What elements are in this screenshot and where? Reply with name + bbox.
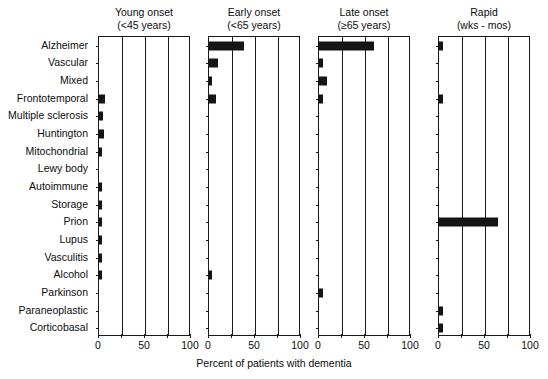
ytick-mark [206, 134, 209, 135]
ytick-mark [206, 205, 209, 206]
xtick-mark [121, 334, 122, 338]
xtick-label: 50 [358, 338, 370, 352]
ytick-mark [96, 328, 99, 329]
ytick-mark [436, 152, 439, 153]
ytick-mark [436, 81, 439, 82]
gridline [462, 37, 463, 335]
xtick-mark [461, 334, 462, 338]
ytick-mark [436, 275, 439, 276]
ytick-mark [436, 169, 439, 170]
xtick-label: 100 [181, 338, 199, 352]
ytick-mark [316, 240, 319, 241]
ytick-mark [206, 152, 209, 153]
panel-rapid [438, 36, 530, 336]
bar [99, 94, 105, 103]
category-label: Mitochondrial [26, 145, 88, 156]
xtick-mark [341, 334, 342, 338]
ytick-mark [96, 81, 99, 82]
bar [99, 271, 102, 280]
xtick-label: 0 [95, 338, 101, 352]
category-label: Vasculitis [44, 251, 88, 262]
ytick-mark [316, 169, 319, 170]
ytick-mark [316, 275, 319, 276]
xtick-mark [277, 334, 278, 338]
panel-title-early: Early onset (<65 years) [208, 6, 300, 31]
category-label: Multiple sclerosis [8, 110, 88, 121]
gridline [145, 37, 146, 335]
xtick-label: 100 [401, 338, 419, 352]
bar [209, 271, 212, 280]
ytick-mark [316, 328, 319, 329]
ytick-mark [316, 116, 319, 117]
bar [99, 235, 102, 244]
xtick-label: 50 [478, 338, 490, 352]
panel-title-young: Young onset (<45 years) [98, 6, 190, 31]
ytick-mark [206, 169, 209, 170]
category-label: Autoimmune [29, 181, 88, 192]
category-label: Frontotemporal [17, 92, 88, 103]
ytick-mark [436, 116, 439, 117]
panel-title-young-line2: (<45 years) [98, 19, 190, 32]
ytick-mark [436, 63, 439, 64]
panel-title-rapid-line2: (wks - mos) [438, 19, 530, 32]
xaxis-ticks-rapid: 050100 [438, 338, 530, 352]
category-label: Corticobasal [30, 322, 88, 333]
bar [99, 183, 102, 192]
xtick-label: 100 [521, 338, 539, 352]
ytick-mark [316, 258, 319, 259]
panel-title-early-line1: Early onset [208, 6, 300, 19]
panel-young [98, 36, 190, 336]
panel-early [208, 36, 300, 336]
bar [99, 200, 102, 209]
bar [439, 218, 498, 227]
panel-title-rapid: Rapid (wks - mos) [438, 6, 530, 31]
ytick-mark [96, 311, 99, 312]
bar [209, 77, 212, 86]
ytick-mark [316, 311, 319, 312]
bar [319, 41, 374, 50]
gridline [508, 37, 509, 335]
ytick-mark [96, 63, 99, 64]
figure-bar-chart-dementia-etiologies: Young onset (<45 years) Early onset (<65… [0, 0, 548, 379]
category-label: Huntington [37, 128, 88, 139]
category-label: Lewy body [38, 163, 88, 174]
ytick-mark [206, 293, 209, 294]
ytick-mark [96, 169, 99, 170]
bar [99, 218, 102, 227]
category-label: Lupus [59, 233, 88, 244]
xtick-mark [507, 334, 508, 338]
bar [319, 77, 327, 86]
ytick-mark [96, 46, 99, 47]
ytick-mark [206, 328, 209, 329]
xtick-label: 50 [248, 338, 260, 352]
xtick-label: 100 [291, 338, 309, 352]
bar [439, 306, 443, 315]
gridline [365, 37, 366, 335]
ytick-mark [316, 205, 319, 206]
gridline [122, 37, 123, 335]
xaxis-ticks-young: 050100 [98, 338, 190, 352]
category-axis-labels: AlzheimerVascularMixedFrontotemporalMult… [0, 36, 92, 336]
ytick-mark [206, 311, 209, 312]
category-label: Prion [63, 216, 88, 227]
ytick-mark [206, 116, 209, 117]
bar [99, 253, 102, 262]
panel-title-late-line2: (≥65 years) [318, 19, 410, 32]
ytick-mark [206, 222, 209, 223]
category-label: Parkinson [41, 286, 88, 297]
xtick-mark [167, 334, 168, 338]
category-label: Vascular [48, 57, 88, 68]
bar [99, 112, 103, 121]
bar [319, 288, 323, 297]
bar [319, 59, 323, 68]
xtick-label: 0 [315, 338, 321, 352]
panel-late [318, 36, 410, 336]
bar [99, 130, 104, 139]
ytick-mark [316, 187, 319, 188]
ytick-mark [436, 205, 439, 206]
bar [99, 147, 102, 156]
gridline [485, 37, 486, 335]
xaxis-ticks-late: 050100 [318, 338, 410, 352]
category-label: Alzheimer [41, 39, 88, 50]
xaxis-ticks-early: 050100 [208, 338, 300, 352]
